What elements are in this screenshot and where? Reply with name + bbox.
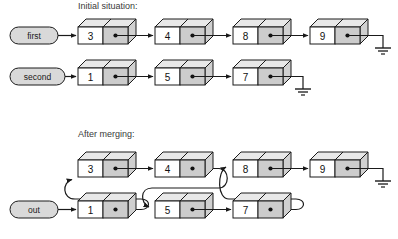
linked-list-merge-diagram: Initial situation: first 3 (0, 0, 398, 239)
node-8-initial[interactable]: 8 (233, 19, 291, 44)
pointer-dot-icon (190, 166, 194, 170)
node-1-merged[interactable]: 1 (78, 193, 136, 218)
pointer-capsule-second[interactable]: second (10, 68, 65, 85)
merged-section-title: After merging: (78, 129, 135, 139)
node-value-label: 4 (165, 164, 171, 175)
node-7-initial[interactable]: 7 (233, 60, 291, 85)
diagram-canvas: Initial situation: first 3 (0, 0, 398, 239)
node-9-initial[interactable]: 9 (310, 19, 368, 44)
node-value-label: 1 (88, 205, 94, 216)
node-value-label: 9 (320, 31, 326, 42)
node-4-initial[interactable]: 4 (155, 19, 213, 44)
capsule-label: out (28, 205, 40, 215)
node-3-initial[interactable]: 3 (78, 19, 136, 44)
node-value-label: 7 (243, 205, 249, 216)
node-value-label: 8 (243, 164, 249, 175)
capsule-label: second (24, 72, 52, 82)
pointer-capsule-out[interactable]: out (10, 201, 58, 218)
node-value-label: 8 (243, 31, 249, 42)
node-value-label: 3 (88, 31, 94, 42)
pointer-capsule-first[interactable]: first (10, 27, 58, 44)
node-value-label: 5 (165, 205, 171, 216)
pointer-dot-icon (268, 207, 272, 211)
node-value-label: 4 (165, 31, 171, 42)
capsule-label: first (27, 31, 41, 41)
node-4-merged[interactable]: 4 (155, 152, 213, 177)
initial-section-title: Initial situation: (78, 1, 138, 11)
node-value-label: 7 (243, 72, 249, 83)
node-7-merged[interactable]: 7 (233, 193, 291, 218)
node-value-label: 9 (320, 164, 326, 175)
node-value-label: 1 (88, 72, 94, 83)
node-1-initial[interactable]: 1 (78, 60, 136, 85)
node-value-label: 5 (165, 72, 171, 83)
node-5-initial[interactable]: 5 (155, 60, 213, 85)
node-9-merged[interactable]: 9 (310, 152, 368, 177)
node-5-merged[interactable]: 5 (155, 193, 213, 218)
pointer-dot-icon (113, 207, 117, 211)
node-value-label: 3 (88, 164, 94, 175)
node-8-merged[interactable]: 8 (233, 152, 291, 177)
node-3-merged[interactable]: 3 (78, 152, 136, 177)
